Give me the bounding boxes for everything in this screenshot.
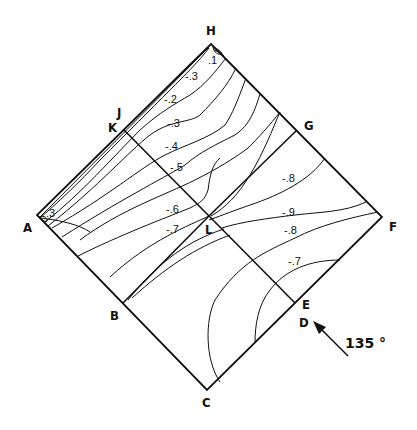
- vertex-label-g: G: [304, 118, 314, 133]
- wind-angle-label: 135 °: [345, 335, 386, 351]
- contour-label: -.3: [185, 70, 198, 82]
- vertex-label-d: D: [299, 315, 309, 330]
- contour-label: -.4: [165, 140, 178, 152]
- vertex-label-h: H: [206, 23, 216, 38]
- contour-line-m08-upper: [209, 158, 325, 220]
- contour-label: -.6: [166, 203, 179, 215]
- contour-line-m08-lower: [208, 212, 378, 382]
- vertex-label-j: J: [116, 105, 121, 120]
- contour-label: -.8: [282, 172, 295, 184]
- wind-direction-arrow-icon: [313, 321, 348, 356]
- contour-label: -.7: [288, 255, 301, 267]
- vertex-label-f: F: [389, 219, 397, 234]
- contour-diagram: H J K G A L F B E D C .1 -.3 -.2 -.3 -.4…: [0, 0, 417, 430]
- vertex-label-c: C: [202, 395, 211, 410]
- contour-label: .1: [208, 54, 217, 66]
- vertex-label-l: L: [205, 222, 213, 237]
- vertex-label-a: A: [23, 220, 32, 235]
- diagram-canvas: H J K G A L F B E D C .1 -.3 -.2 -.3 -.4…: [0, 0, 417, 430]
- contour-line: [40, 48, 209, 218]
- vertex-label-e: E: [302, 297, 310, 312]
- edge-ah-double-line: [39, 47, 209, 218]
- contour-label: -.5: [170, 161, 183, 173]
- contour-line: [110, 216, 209, 277]
- contour-label: -.7: [166, 223, 179, 235]
- vertex-label-b: B: [110, 308, 119, 323]
- contour-label: -.9: [282, 206, 295, 218]
- contour-label: -.8: [284, 224, 297, 236]
- contour-label: -.3: [167, 117, 180, 129]
- contour-label: -.2: [164, 93, 177, 105]
- contour-label: .3: [46, 207, 55, 219]
- contour-line: [52, 78, 246, 228]
- contour-line: [48, 68, 236, 226]
- vertex-label-k: K: [108, 120, 118, 135]
